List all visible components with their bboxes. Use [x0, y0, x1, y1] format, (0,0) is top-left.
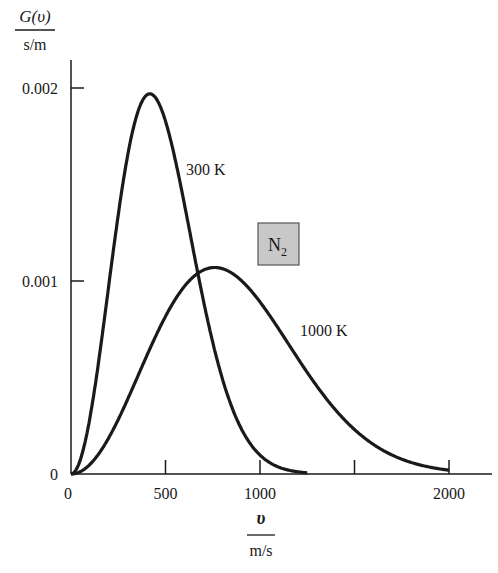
y-tick-label: 0	[50, 466, 58, 483]
y-axis-label-numerator: G(υ)	[19, 7, 51, 26]
series-label-1000k: 1000 K	[300, 322, 348, 339]
x-axis-label-numerator: υ	[257, 508, 266, 528]
curve-1000k	[71, 268, 449, 475]
curves	[71, 94, 449, 474]
series-label-300k: 300 K	[186, 161, 226, 178]
x-tick-label: 2000	[433, 485, 465, 502]
x-tick-label: 500	[154, 485, 178, 502]
y-tick-label: 0.001	[22, 273, 58, 290]
y-axis-label-denominator: s/m	[23, 36, 47, 53]
x-tick-label: 0	[64, 485, 72, 502]
molecule-annotation-box: N2	[258, 223, 299, 265]
curve-300k	[71, 94, 307, 474]
chart: G(υ) s/m 05001000200000.0010.002 300 K 1…	[0, 0, 498, 573]
x-axis-label-denominator: m/s	[249, 542, 272, 559]
axis-ticks: 05001000200000.0010.002	[22, 80, 465, 502]
x-tick-label: 1000	[244, 485, 276, 502]
y-tick-label: 0.002	[22, 80, 58, 97]
